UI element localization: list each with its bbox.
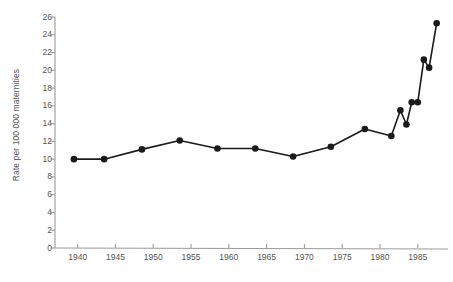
- x-axis-tick-labels: 1940194519501955196019651970197519801985: [0, 0, 453, 282]
- x-axis-tick-label: 1940: [58, 253, 98, 262]
- x-axis-tick-label: 1945: [95, 253, 135, 262]
- x-axis-tick-label: 1985: [398, 253, 438, 262]
- x-axis-tick-label: 1960: [209, 253, 249, 262]
- chart-figure: Rate per 100 000 maternities 02468101214…: [0, 0, 453, 282]
- x-axis-tick-label: 1980: [360, 253, 400, 262]
- x-axis-tick-label: 1955: [171, 253, 211, 262]
- x-axis-tick-label: 1950: [133, 253, 173, 262]
- x-axis-tick-label: 1975: [322, 253, 362, 262]
- x-axis-tick-label: 1970: [284, 253, 324, 262]
- x-axis-tick-label: 1965: [247, 253, 287, 262]
